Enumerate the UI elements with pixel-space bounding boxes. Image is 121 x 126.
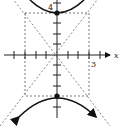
hyperbola-diagram: 4 3 x [0,0,121,126]
vertex-label: 4 [48,3,53,12]
x-tick-label: 3 [91,60,96,69]
vertex-bottom [54,93,59,98]
x-axis-label: x [114,51,119,60]
vertex-top [54,10,59,15]
y-axis [53,0,61,118]
